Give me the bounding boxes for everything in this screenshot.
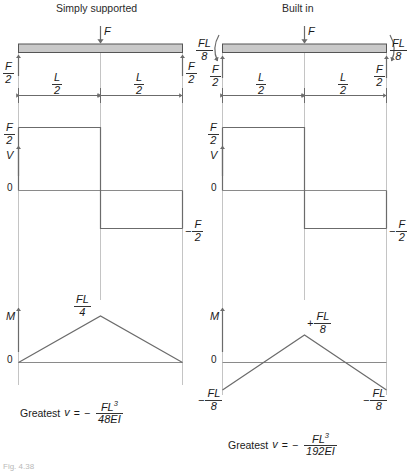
moment-diagram-right bbox=[223, 308, 387, 390]
reaction-left-num: F bbox=[3, 61, 14, 74]
span-label-left-half: L 2 bbox=[52, 68, 62, 96]
moment-peak-den-left: 4 bbox=[74, 307, 91, 319]
shear-top-num-left: F bbox=[4, 122, 15, 135]
moment-end-left-den: 8 bbox=[205, 401, 222, 413]
beam-bar-right bbox=[223, 44, 387, 53]
moment-end-label-right: − FL 8 bbox=[363, 388, 387, 412]
span-label-right-half: L 2 bbox=[134, 68, 144, 96]
beam-bar-left bbox=[19, 44, 183, 53]
span2-left-num: L bbox=[256, 72, 266, 85]
panel-built-in bbox=[215, 26, 394, 395]
shear-bottom-sign-left: − bbox=[185, 226, 191, 237]
moment-peak-num-right: FL bbox=[314, 311, 331, 324]
shear-top-label-left: F 2 bbox=[4, 118, 15, 146]
moment-peak-num-left: FL bbox=[74, 294, 91, 307]
reaction2-right-num: F bbox=[374, 64, 385, 77]
deflection-formula-left: Greatest v = − FL3 48EI bbox=[20, 400, 123, 426]
span-right-num: L bbox=[134, 72, 144, 85]
deflection-var-right: v bbox=[272, 439, 278, 450]
moment-end-right-num: FL bbox=[370, 388, 387, 401]
deflection-exp-right: 3 bbox=[325, 431, 329, 440]
span-right-den: 2 bbox=[134, 85, 144, 97]
shear-axis-label-left: V bbox=[6, 150, 13, 161]
deflection-prefix-right: Greatest bbox=[228, 440, 268, 451]
shear-bottom-num-left: F bbox=[192, 219, 203, 232]
deflection-eq-left: = bbox=[74, 408, 80, 419]
span2-left-den: 2 bbox=[256, 85, 266, 97]
panel-title-built-in: Built in bbox=[282, 3, 314, 14]
moment-end-left-num: FL bbox=[205, 388, 222, 401]
reaction2-left-num: F bbox=[210, 64, 221, 77]
span2-right-den: 2 bbox=[338, 85, 348, 97]
deflection-num-right: FL bbox=[312, 433, 325, 445]
dimension-line-left bbox=[19, 88, 183, 103]
shear-bottom-sign-right: − bbox=[389, 226, 395, 237]
shear-top-den-left: 2 bbox=[4, 135, 15, 147]
moment-zero-label-right: 0 bbox=[211, 355, 217, 365]
shear-bottom-label-left: − F 2 bbox=[185, 219, 203, 243]
load-label-right: F bbox=[308, 26, 315, 37]
shear-zero-label-left: 0 bbox=[7, 183, 13, 193]
reaction-right-num: F bbox=[186, 61, 197, 74]
moment-axis-label-left: M bbox=[6, 311, 15, 322]
deflection-eq-right: = bbox=[282, 440, 288, 451]
moment-axis-label-right: M bbox=[210, 311, 219, 322]
reaction2-right-den: 2 bbox=[374, 77, 385, 89]
moment-peak-label-left: FL 4 bbox=[74, 290, 91, 318]
moment-end-right-den: 8 bbox=[370, 401, 387, 413]
panel-title-simply-supported: Simply supported bbox=[56, 3, 137, 14]
shear-top-den-right: 2 bbox=[208, 135, 219, 147]
reaction2-left-den: 2 bbox=[210, 77, 221, 89]
end-moment-label-right: FL 8 bbox=[390, 34, 407, 62]
deflection-formula-right: Greatest v = − FL3 192EI bbox=[228, 432, 337, 458]
reaction-left-den: 2 bbox=[3, 74, 14, 86]
moment-end-left-sign: − bbox=[198, 395, 204, 406]
deflection-den-left: 48EI bbox=[96, 414, 123, 426]
deflection-exp-left: 3 bbox=[114, 399, 118, 408]
reaction-label-left-start: F 2 bbox=[3, 57, 14, 85]
reaction-label-right-end: F 2 bbox=[374, 60, 385, 88]
moment-end-label-left: − FL 8 bbox=[198, 388, 222, 412]
moment-peak-label-right: + FL 8 bbox=[307, 311, 331, 335]
dimension-line-right bbox=[223, 88, 387, 103]
end-moment-arc-left bbox=[215, 35, 219, 61]
shear-top-label-right: F 2 bbox=[208, 118, 219, 146]
shear-bottom-label-right: − F 2 bbox=[389, 219, 407, 243]
moment-zero-label-left: 0 bbox=[7, 355, 13, 365]
shear-diagram-right bbox=[223, 128, 387, 229]
deflection-sign-left: − bbox=[84, 408, 90, 419]
figure-caption: Fig. 4.38 bbox=[3, 463, 34, 471]
deflection-var-left: v bbox=[64, 407, 70, 418]
end-moment-right-num: FL bbox=[390, 38, 407, 51]
shear-bottom-den-right: 2 bbox=[396, 232, 407, 244]
shear-bottom-den-left: 2 bbox=[192, 232, 203, 244]
span-left-den: 2 bbox=[52, 85, 62, 97]
shear-top-num-right: F bbox=[208, 122, 219, 135]
end-moment-label-left: FL 8 bbox=[196, 34, 213, 62]
reaction-label-right-start: F 2 bbox=[210, 60, 221, 88]
reaction-right-den: 2 bbox=[186, 74, 197, 86]
span-label-right-panel-left: L 2 bbox=[256, 68, 266, 96]
shear-diagram-left bbox=[19, 128, 183, 229]
moment-peak-sign-right: + bbox=[307, 318, 313, 329]
span-label-right-panel-right: L 2 bbox=[338, 68, 348, 96]
load-label-left: F bbox=[104, 26, 111, 37]
moment-peak-den-right: 8 bbox=[314, 324, 331, 336]
deflection-prefix-left: Greatest bbox=[20, 408, 60, 419]
deflection-num-left: FL bbox=[101, 401, 114, 413]
deflection-sign-right: − bbox=[292, 440, 298, 451]
moment-diagram-left bbox=[19, 308, 183, 363]
span2-right-num: L bbox=[338, 72, 348, 85]
end-moment-left-num: FL bbox=[196, 38, 213, 51]
shear-axis-label-right: V bbox=[210, 150, 217, 161]
panel-simply-supported bbox=[19, 26, 183, 385]
end-moment-right-den: 8 bbox=[390, 51, 407, 63]
span-left-num: L bbox=[52, 72, 62, 85]
deflection-den-right: 192EI bbox=[304, 446, 337, 458]
shear-zero-label-right: 0 bbox=[211, 183, 217, 193]
shear-bottom-num-right: F bbox=[396, 219, 407, 232]
moment-end-right-sign: − bbox=[363, 395, 369, 406]
